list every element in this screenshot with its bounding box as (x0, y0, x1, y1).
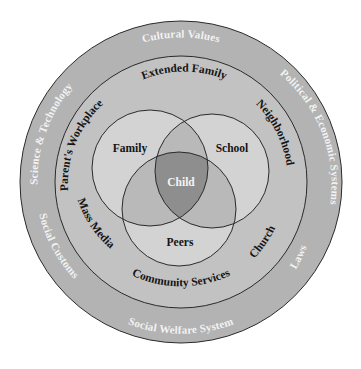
venn-label-child: Child (167, 176, 195, 188)
ecological-systems-diagram: Cultural Values Science & Technology Pol… (0, 0, 361, 369)
venn-label-peers: Peers (167, 236, 194, 248)
venn-label-school: School (216, 142, 249, 154)
venn-label-family: Family (113, 142, 148, 155)
